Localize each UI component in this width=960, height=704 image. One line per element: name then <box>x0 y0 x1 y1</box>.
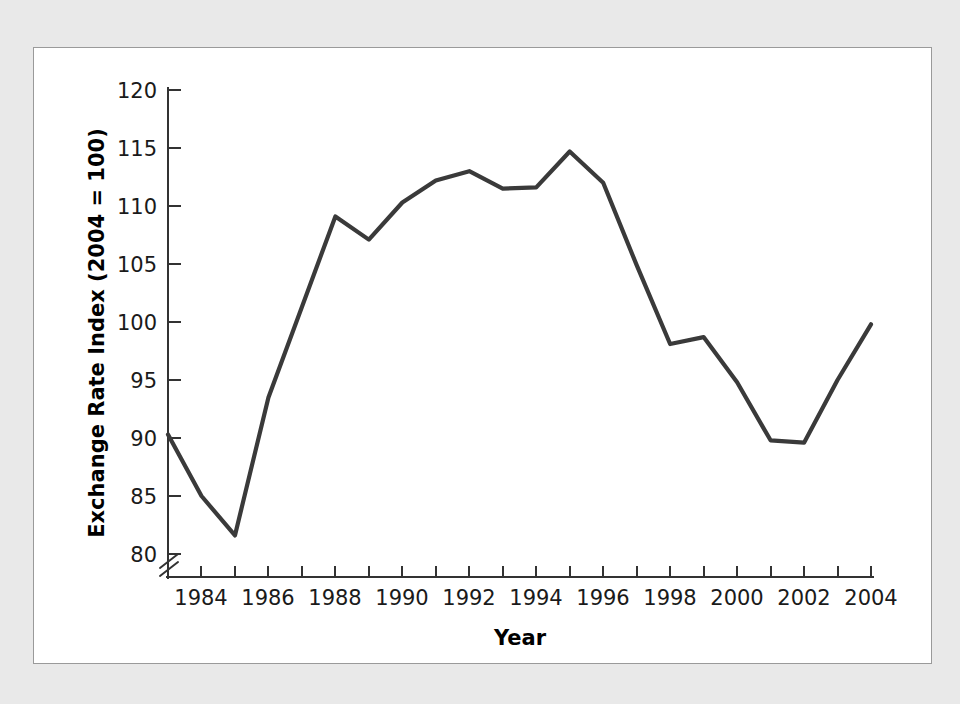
y-tick-label-105: 105 <box>117 253 157 277</box>
y-tick-label-90: 90 <box>130 427 157 451</box>
y-tick-label-110: 110 <box>117 195 157 219</box>
y-tick-label-120: 120 <box>117 79 157 103</box>
y-tick-label-85: 85 <box>130 485 157 509</box>
x-tick-label-2002: 2002 <box>777 586 830 610</box>
x-tick-label-1988: 1988 <box>308 586 361 610</box>
data-series-line <box>168 151 871 535</box>
x-tick-label-1994: 1994 <box>509 586 562 610</box>
x-tick-label-2000: 2000 <box>710 586 763 610</box>
x-tick-label-1986: 1986 <box>241 586 294 610</box>
x-axis-title: Year <box>493 626 547 650</box>
x-tick-label-1984: 1984 <box>174 586 227 610</box>
chart-svg: 120 115 110 105 100 95 90 85 80 1984 198… <box>0 0 960 704</box>
x-tick-label-1990: 1990 <box>375 586 428 610</box>
x-tick-label-1996: 1996 <box>576 586 629 610</box>
x-axis-ticks <box>201 566 871 577</box>
y-tick-label-80: 80 <box>130 543 157 567</box>
x-tick-label-1992: 1992 <box>442 586 495 610</box>
figure-frame: 120 115 110 105 100 95 90 85 80 1984 198… <box>0 0 960 704</box>
y-tick-label-95: 95 <box>130 369 157 393</box>
x-tick-label-2004: 2004 <box>844 586 897 610</box>
y-tick-label-100: 100 <box>117 311 157 335</box>
y-axis-tick-labels: 120 115 110 105 100 95 90 85 80 <box>117 79 157 567</box>
y-axis-ticks <box>168 90 181 554</box>
y-axis-title: Exchange Rate Index (2004 = 100) <box>85 128 109 538</box>
y-tick-label-115: 115 <box>117 137 157 161</box>
x-axis-tick-labels: 1984 1986 1988 1990 1992 1994 1996 1998 … <box>174 586 897 610</box>
x-tick-label-1998: 1998 <box>643 586 696 610</box>
